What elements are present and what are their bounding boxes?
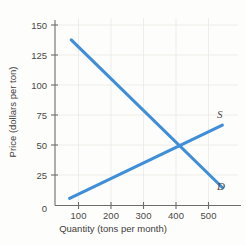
supply-curve-label: S — [217, 108, 223, 120]
y-tick-label-125: 125 — [31, 50, 47, 61]
supply-curve — [70, 125, 223, 198]
demand-curve-label: D — [216, 180, 225, 192]
y-tick-labels: 150 125 100 75 50 25 0 — [31, 20, 47, 215]
y-tick-label-150: 150 — [31, 20, 47, 31]
x-tick-label-400: 400 — [168, 210, 184, 221]
x-tick-label-500: 500 — [201, 210, 217, 221]
y-tick-label-75: 75 — [36, 110, 47, 121]
x-tick-label-200: 200 — [103, 210, 119, 221]
supply-demand-chart: 150 125 100 75 50 25 0 100 200 300 400 5… — [0, 0, 246, 245]
x-tick-label-100: 100 — [71, 210, 87, 221]
y-tick-label-25: 25 — [36, 170, 47, 181]
x-tick-label-300: 300 — [136, 210, 152, 221]
x-tick-labels: 100 200 300 400 500 — [71, 210, 217, 221]
y-tick-label-0: 0 — [42, 203, 47, 214]
demand-curve — [71, 40, 222, 188]
y-tick-label-100: 100 — [31, 80, 47, 91]
chart-svg: 150 125 100 75 50 25 0 100 200 300 400 5… — [0, 0, 246, 245]
y-axis-title: Price (dollars per ton) — [7, 67, 18, 158]
x-axis-title: Quantity (tons per month) — [59, 223, 167, 234]
y-tick-label-50: 50 — [36, 140, 47, 151]
horizontal-gridlines — [55, 25, 238, 175]
